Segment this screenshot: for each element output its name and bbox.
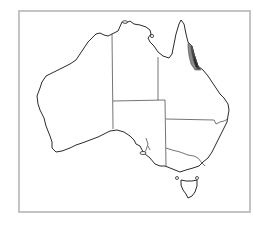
king-island	[176, 177, 179, 180]
flinders-island	[196, 177, 199, 180]
tasmania-outline	[181, 180, 197, 198]
kangaroo-island	[140, 152, 146, 155]
melville-island	[123, 21, 128, 24]
mainland-outline	[37, 20, 229, 172]
groote-eylandt	[150, 34, 153, 37]
australia-map	[0, 0, 253, 229]
